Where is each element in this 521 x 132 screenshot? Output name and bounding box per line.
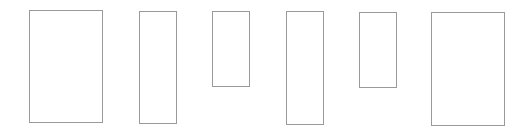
- rectangle-shape: [431, 12, 505, 126]
- rectangle-shape: [286, 11, 324, 125]
- rectangle-shape: [212, 11, 250, 87]
- rectangle-shape: [359, 12, 397, 88]
- rectangle-shape: [139, 11, 177, 124]
- diagram-canvas: [0, 0, 521, 132]
- rectangle-shape: [29, 10, 103, 123]
